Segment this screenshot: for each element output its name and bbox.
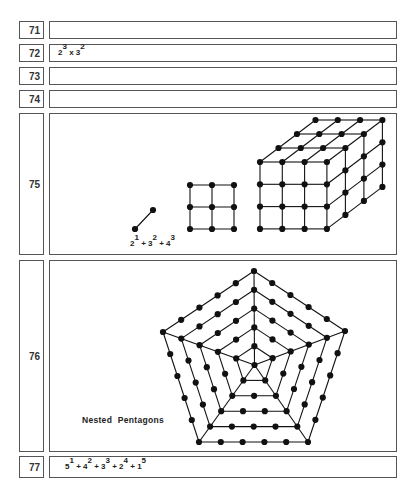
row-content-74 (49, 90, 397, 108)
row-number-71: 71 (19, 21, 44, 39)
nested-pentagons-caption: Nested Pentagons (82, 415, 164, 425)
row-number-75: 75 (19, 113, 44, 255)
formula-77: 51 + 42 + 33 + 24 + 15 (65, 462, 146, 471)
row-number-72: 72 (19, 44, 44, 62)
formula-72: 23 x 32 (58, 48, 85, 57)
row-content-72 (49, 44, 397, 62)
formula-75: 21 + 32 + 43 (130, 239, 175, 248)
row-content-73 (49, 67, 397, 85)
row-number-76: 76 (19, 260, 44, 452)
row-number-73: 73 (19, 67, 44, 85)
row-number-77: 77 (19, 456, 44, 478)
row-content-75 (49, 113, 397, 255)
row-content-71 (49, 21, 397, 39)
row-number-74: 74 (19, 90, 44, 108)
